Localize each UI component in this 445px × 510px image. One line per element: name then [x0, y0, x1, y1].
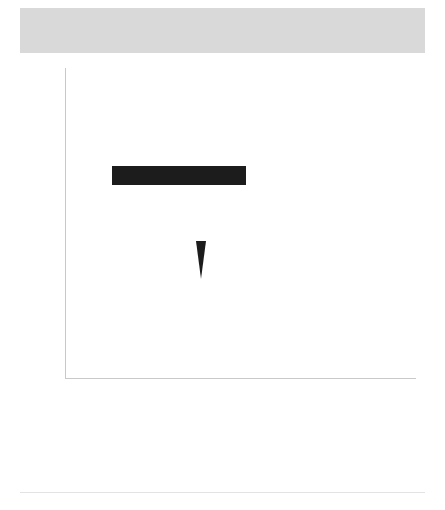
title-banner [20, 8, 425, 53]
series-plot [0, 55, 445, 400]
chart-page [0, 0, 445, 510]
chart-legend [0, 428, 445, 488]
chart-container [0, 55, 445, 400]
annotation-callout [112, 166, 246, 185]
annotation-pointer [196, 241, 206, 279]
footer-divider [20, 492, 425, 493]
